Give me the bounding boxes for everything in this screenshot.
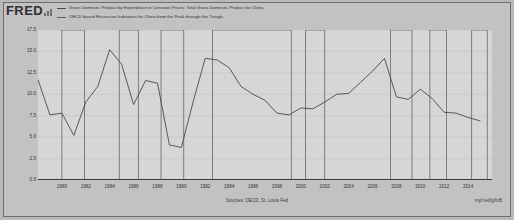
y-tick-label: 7.5 bbox=[22, 113, 36, 118]
legend-label-recession: OECD based Recession Indicators for Chin… bbox=[69, 14, 223, 20]
x-tick-label: 1984 bbox=[99, 184, 121, 189]
y-tick-label: 17.5 bbox=[22, 27, 36, 32]
x-tick-label: 1986 bbox=[123, 184, 145, 189]
source-note: Sources: OECD, St. Louis Fed bbox=[0, 198, 514, 203]
y-tick-label: 5.0 bbox=[22, 134, 36, 139]
x-tick-label: 2014 bbox=[457, 184, 479, 189]
recession-band bbox=[306, 30, 325, 180]
recession-band bbox=[62, 30, 85, 180]
legend-item-gdp[interactable]: Gross Domestic Product by Expenditure in… bbox=[57, 4, 477, 12]
legend-swatch-recession-icon bbox=[57, 17, 66, 18]
x-tick-label: 2010 bbox=[409, 184, 431, 189]
recession-band bbox=[472, 30, 488, 180]
x-tick-label: 2004 bbox=[338, 184, 360, 189]
legend-label-gdp: Gross Domestic Product by Expenditure in… bbox=[69, 5, 263, 11]
x-tick-label: 1990 bbox=[170, 184, 192, 189]
series-line-gdp bbox=[38, 50, 480, 148]
chart-legend: Gross Domestic Product by Expenditure in… bbox=[57, 4, 477, 22]
y-tick-label: 10.0 bbox=[22, 91, 36, 96]
bar-chart-icon bbox=[44, 9, 53, 16]
x-tick-label: 2008 bbox=[385, 184, 407, 189]
x-tick-label: 1998 bbox=[266, 184, 288, 189]
x-tick-label: 2006 bbox=[362, 184, 384, 189]
chart-header: FRED Gross Domestic Product by Expenditu… bbox=[0, 0, 514, 26]
recession-band bbox=[390, 30, 412, 180]
x-tick-label: 2000 bbox=[290, 184, 312, 189]
x-tick-label: 1996 bbox=[242, 184, 264, 189]
x-tick-label: 2002 bbox=[314, 184, 336, 189]
recession-band bbox=[119, 30, 138, 180]
y-tick-label: 15.0 bbox=[22, 48, 36, 53]
fred-logo[interactable]: FRED bbox=[6, 4, 43, 18]
recession-band bbox=[161, 30, 184, 180]
recession-band bbox=[212, 30, 291, 180]
y-axis-ticks: 17.515.012.510.07.55.02.50.0 bbox=[19, 30, 36, 180]
legend-swatch-gdp-icon bbox=[57, 8, 66, 9]
plot-area bbox=[38, 30, 492, 180]
y-tick-label: 12.5 bbox=[22, 70, 36, 75]
chart-canvas bbox=[38, 30, 492, 180]
x-tick-label: 1980 bbox=[51, 184, 73, 189]
permalink-label[interactable]: myf.red/g/fnB bbox=[475, 198, 502, 203]
legend-item-recession[interactable]: OECD based Recession Indicators for Chin… bbox=[57, 13, 477, 21]
x-axis-ticks: 1980198219841986198819901992199419961998… bbox=[38, 184, 492, 194]
y-tick-label: 0.0 bbox=[22, 177, 36, 182]
x-tick-label: 1988 bbox=[146, 184, 168, 189]
fred-chart-figure: FRED Gross Domestic Product by Expenditu… bbox=[0, 0, 514, 220]
x-tick-label: 1982 bbox=[75, 184, 97, 189]
x-tick-label: 2012 bbox=[433, 184, 455, 189]
x-tick-label: 1994 bbox=[218, 184, 240, 189]
y-tick-label: 2.5 bbox=[22, 156, 36, 161]
x-tick-label: 1992 bbox=[194, 184, 216, 189]
